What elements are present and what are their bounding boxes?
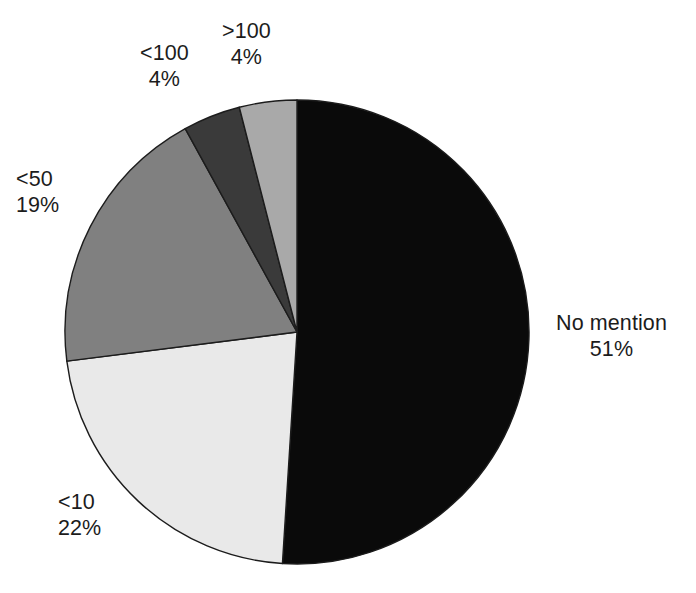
pie-label-lt100: <100 4% xyxy=(140,40,189,92)
pie-label-lt10-value: 22% xyxy=(58,515,101,541)
pie-label-lt100-name: <100 xyxy=(140,40,189,66)
pie-label-gt100-name: >100 xyxy=(222,18,271,44)
pie-label-lt10: <10 22% xyxy=(58,489,101,541)
pie-label-gt100: >100 4% xyxy=(222,18,271,70)
pie-label-no-mention-value: 51% xyxy=(556,336,667,362)
pie-label-lt50-name: <50 xyxy=(16,166,59,192)
pie-label-lt10-name: <10 xyxy=(58,489,101,515)
pie-label-lt100-value: 4% xyxy=(140,66,189,92)
pie-slice-lt10[interactable] xyxy=(67,332,297,564)
pie-label-no-mention: No mention 51% xyxy=(556,310,667,362)
pie-chart-canvas xyxy=(0,0,696,593)
pie-label-lt50-value: 19% xyxy=(16,192,59,218)
pie-chart-figure: No mention 51% <10 22% <50 19% <100 4% >… xyxy=(0,0,696,593)
pie-slices xyxy=(65,100,529,564)
pie-slice-no-mention[interactable] xyxy=(282,100,529,564)
pie-label-no-mention-name: No mention xyxy=(556,310,667,336)
pie-label-gt100-value: 4% xyxy=(222,44,271,70)
pie-label-lt50: <50 19% xyxy=(16,166,59,218)
